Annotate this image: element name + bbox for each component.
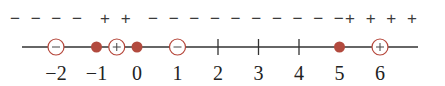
tick-label: 1 xyxy=(173,62,183,85)
tick-label: 6 xyxy=(375,62,385,85)
sign-group: + + xyxy=(100,9,134,29)
sign-group: − − − − − − − − − − xyxy=(148,9,347,29)
tick-label: 4 xyxy=(294,62,304,85)
tick-label: 3 xyxy=(254,62,264,85)
sign-group: − − − − xyxy=(10,9,85,29)
tick-label: −1 xyxy=(86,62,107,85)
filled-point-marker xyxy=(132,42,143,53)
tick-label: 2 xyxy=(213,62,223,85)
sign-group: + + + + xyxy=(345,9,420,29)
tick-label: 0 xyxy=(132,62,142,85)
tick-label: −2 xyxy=(45,62,66,85)
sign-chart-diagram: − − − −+ +− − − − − − − − − −+ + + + −2−… xyxy=(0,0,445,86)
filled-point-marker xyxy=(91,42,102,53)
tick-label: 5 xyxy=(335,62,345,85)
filled-point-marker xyxy=(334,42,345,53)
